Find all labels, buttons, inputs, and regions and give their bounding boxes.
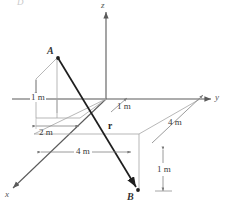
point-b-marker bbox=[136, 188, 140, 192]
x-axis-label: x bbox=[5, 190, 9, 199]
dim-a-x-label: 2 m bbox=[39, 128, 53, 137]
y-axis-label: y bbox=[215, 93, 219, 102]
dim-b-depth-label: 1 m bbox=[157, 165, 171, 174]
point-a-label: A bbox=[47, 46, 54, 56]
dim-origin-y-label: 1 m bbox=[117, 102, 131, 111]
coordinate-diagram bbox=[0, 0, 228, 210]
point-a-marker bbox=[56, 56, 60, 60]
vector-r-line bbox=[58, 58, 136, 187]
point-b-label: B bbox=[127, 192, 134, 202]
dim-base-x-label: 4 m bbox=[74, 147, 92, 156]
x-axis-line bbox=[13, 99, 106, 188]
dim-base-y-label: 4 m bbox=[168, 118, 182, 127]
figure-mark: D bbox=[17, 0, 24, 7]
dim-a-height-label: 1 m bbox=[30, 93, 46, 102]
a-edge-left bbox=[36, 58, 57, 79]
vector-r-label: r bbox=[108, 122, 112, 132]
z-axis-label: z bbox=[101, 1, 105, 10]
